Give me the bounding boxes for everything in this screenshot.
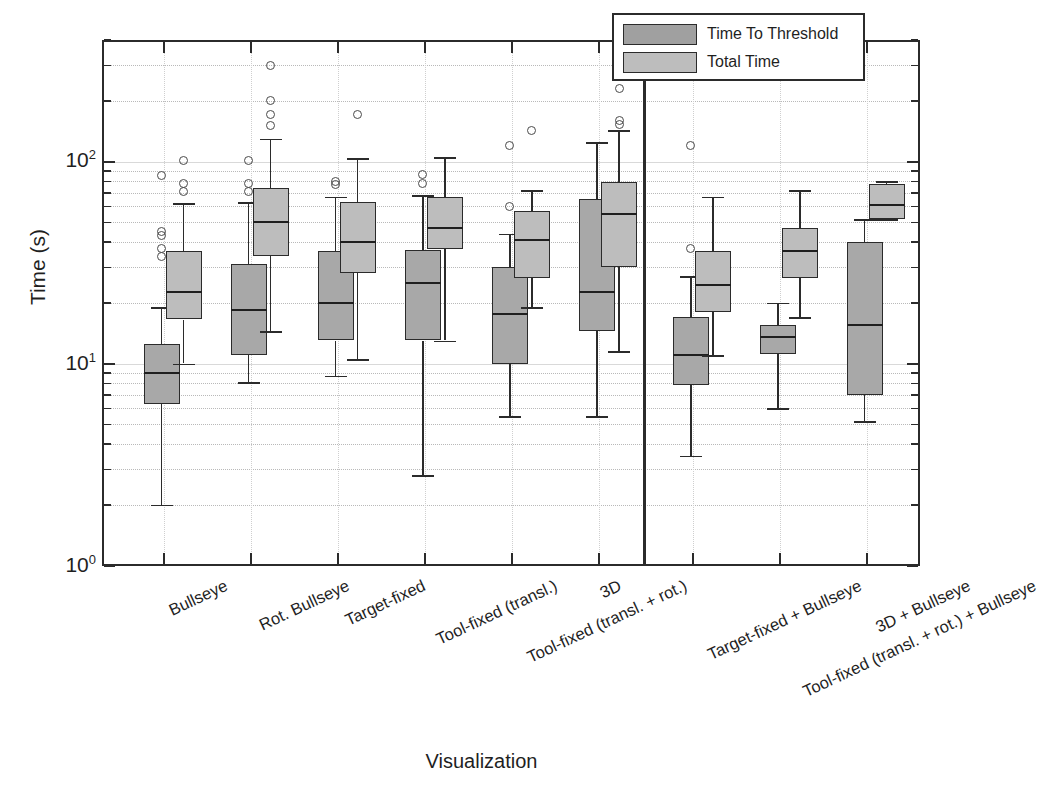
y-tick-minor	[104, 267, 111, 269]
y-axis-title: Time (s)	[26, 167, 50, 367]
outlier-marker	[244, 179, 253, 188]
whisker	[248, 355, 250, 382]
outlier-marker	[686, 141, 695, 150]
y-tick-minor	[104, 424, 111, 426]
whisker	[531, 278, 533, 307]
plot-canvas	[104, 42, 918, 564]
y-tick-minor	[104, 170, 111, 172]
y-tick-minor	[104, 206, 111, 208]
whisker	[777, 354, 779, 409]
x-tick	[866, 42, 868, 53]
whisker	[357, 158, 359, 202]
y-tick-minor	[911, 39, 918, 41]
y-tick-major	[104, 565, 115, 567]
x-axis-category-label: Target-fixed	[342, 576, 428, 630]
y-tick-minor	[911, 170, 918, 172]
outlier-marker	[505, 141, 514, 150]
median-line	[847, 324, 883, 326]
whisker	[531, 190, 533, 211]
y-tick-minor	[104, 100, 111, 102]
y-tick-minor	[911, 469, 918, 471]
y-tick-minor	[911, 394, 918, 396]
whisker-cap	[499, 416, 521, 418]
y-tick-minor	[104, 394, 111, 396]
whisker	[799, 278, 801, 317]
outlier-marker	[266, 110, 275, 119]
y-tick-minor	[104, 65, 111, 67]
outlier-marker	[179, 187, 188, 196]
whisker-cap	[173, 364, 195, 366]
legend-label: Time To Threshold	[707, 25, 838, 43]
whisker	[509, 364, 511, 416]
y-tick-minor	[104, 372, 111, 374]
legend-item-total-time: Total Time	[623, 50, 780, 74]
box-ttt	[405, 250, 441, 341]
whisker-cap	[789, 190, 811, 192]
y-tick-label-100: 102	[4, 148, 96, 170]
whisker	[161, 307, 163, 344]
x-tick	[424, 553, 426, 564]
whisker	[335, 197, 337, 252]
whisker-cap	[412, 475, 434, 477]
y-tick-minor	[911, 222, 918, 224]
whisker-cap	[854, 219, 876, 221]
plot-area	[102, 40, 920, 566]
whisker-cap	[325, 376, 347, 378]
box-tt	[782, 228, 818, 278]
box-tt	[601, 182, 637, 267]
whisker-cap	[702, 355, 724, 357]
x-tick	[511, 553, 513, 564]
box-ttt	[492, 267, 528, 364]
box-tt	[869, 184, 905, 218]
y-tick-label-1: 100	[4, 553, 96, 575]
whisker-cap	[767, 303, 789, 305]
box-tt	[695, 251, 731, 312]
whisker-cap	[173, 203, 195, 205]
median-line	[318, 302, 354, 304]
x-tick	[598, 42, 600, 53]
y-tick-minor	[911, 206, 918, 208]
y-tick-major	[907, 565, 918, 567]
whisker	[712, 312, 714, 355]
whisker	[712, 197, 714, 252]
outlier-marker	[157, 171, 166, 180]
box-ttt	[847, 242, 883, 395]
whisker	[864, 395, 866, 421]
x-tick	[337, 553, 339, 564]
whisker-cap	[586, 416, 608, 418]
outlier-marker	[244, 156, 253, 165]
outlier-marker	[331, 177, 340, 186]
legend-label: Total Time	[707, 53, 780, 71]
y-tick-minor	[911, 302, 918, 304]
x-tick	[866, 553, 868, 564]
median-line	[760, 336, 796, 338]
median-line	[492, 313, 528, 315]
y-tick-minor	[104, 302, 111, 304]
y-tick-minor	[911, 241, 918, 243]
whisker	[799, 190, 801, 227]
whisker-cap	[789, 317, 811, 319]
y-tick-minor	[911, 504, 918, 506]
x-axis-category-label: 3D	[597, 576, 624, 602]
legend-swatch-icon	[623, 24, 697, 45]
outlier-marker	[266, 121, 275, 130]
whisker-cap	[586, 142, 608, 144]
box-tt	[514, 211, 550, 278]
whisker	[422, 195, 424, 250]
whisker-cap	[521, 190, 543, 192]
x-axis-category-label: Target-fixed + Bullseye	[705, 576, 865, 664]
outlier-marker	[179, 156, 188, 165]
outlier-marker	[615, 116, 624, 125]
y-tick-minor	[911, 100, 918, 102]
whisker-cap	[854, 421, 876, 423]
whisker-cap	[521, 307, 543, 309]
y-tick-minor	[911, 443, 918, 445]
y-tick-minor	[911, 65, 918, 67]
x-axis-title: Visualization	[0, 750, 963, 773]
y-tick-minor	[104, 408, 111, 410]
x-axis-category-label: Tool-fixed (transl.)	[434, 576, 561, 649]
x-tick	[163, 553, 165, 564]
outlier-marker	[266, 96, 275, 105]
y-tick-minor	[911, 383, 918, 385]
y-axis-tick-labels: 102 101 100	[0, 0, 96, 792]
